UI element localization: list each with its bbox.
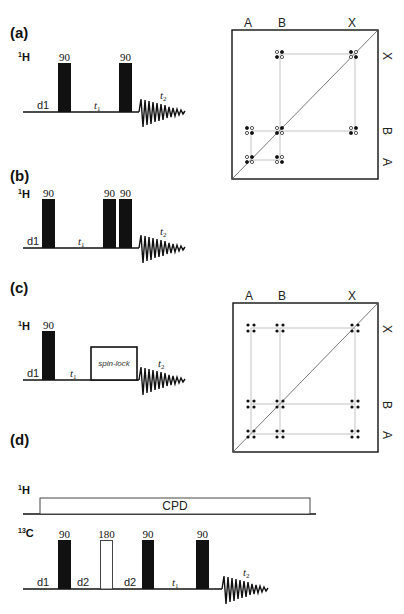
pulse-sequence-figure: (a) 1H 90 90 d1 t1 t2 A B X X B A <box>0 0 404 614</box>
panel-a-fid <box>139 99 185 127</box>
panel-a-pulse-2-label: 90 <box>120 51 132 63</box>
panel-d-cpd-label: CPD <box>162 499 188 513</box>
spectrum-c: A B X X B A <box>233 289 394 452</box>
panel-b-t2: t2 <box>160 225 167 239</box>
panel-d-nucleus: 13C <box>18 527 34 539</box>
panel-c-t1: t1 <box>70 367 77 381</box>
panel-a-pulse-1-label: 90 <box>59 51 71 63</box>
panel-d-sequence: (d) 1H CPD 13C 90 180 90 90 d1 d2 d2 t1 … <box>10 431 316 604</box>
spectrum-a-side-label-B: B <box>380 127 394 135</box>
spectrum-a-peaks <box>245 50 357 163</box>
panel-c-sequence: (c) 1H 90 spin-lock d1 t1 t2 <box>10 279 185 395</box>
panel-b-nucleus: 1H <box>18 188 30 200</box>
panel-c-fid <box>139 367 185 395</box>
panel-d-pulse-180-label: 180 <box>98 528 115 540</box>
spectrum-c-side-label-B: B <box>380 401 394 409</box>
panel-a-pulse-2 <box>119 63 132 112</box>
spectrum-a-side-label-X: X <box>380 52 394 60</box>
spectrum-c-top-label-B: B <box>278 289 286 303</box>
panel-a-sequence: (a) 1H 90 90 d1 t1 t2 <box>10 24 185 127</box>
panel-d-pulse-4-label: 90 <box>197 528 209 540</box>
panel-d-pulse-3 <box>142 540 154 589</box>
panel-d-delay-d2-1: d2 <box>77 576 89 588</box>
spectrum-a-top-label-X: X <box>348 16 356 30</box>
panel-c-delay-d1: d1 <box>27 367 39 379</box>
panel-b-label: (b) <box>10 167 29 184</box>
panel-b-delay-d1: d1 <box>27 235 39 247</box>
panel-d-pulse-1 <box>58 540 71 589</box>
panel-d-pulse-1-label: 90 <box>59 528 71 540</box>
panel-d-fid <box>222 576 268 604</box>
panel-a-delay-d1: d1 <box>37 99 49 111</box>
panel-b-pulse-3 <box>119 199 132 248</box>
panel-b-sequence: (b) 1H 90 90 90 d1 t1 t2 <box>10 167 185 263</box>
panel-b-t1: t1 <box>78 235 85 249</box>
spectrum-c-top-label-X: X <box>348 289 356 303</box>
panel-d-pulse-180 <box>101 541 113 590</box>
panel-c-pulse-1-label: 90 <box>43 319 55 331</box>
panel-d-t1: t1 <box>172 576 179 590</box>
panel-b-pulse-2 <box>103 199 116 248</box>
panel-d-delay-d1: d1 <box>37 576 49 588</box>
spectrum-a-side-label-A: A <box>380 158 394 166</box>
spectrum-c-connectors <box>251 328 355 434</box>
spectrum-a-top-label-B: B <box>278 16 286 30</box>
spectrum-a: A B X X B A <box>232 16 394 179</box>
panel-a-t1: t1 <box>94 99 101 113</box>
panel-a-pulse-1 <box>58 63 71 112</box>
panel-b-pulse-1-label: 90 <box>43 187 55 199</box>
spectrum-a-top-label-A: A <box>244 16 252 30</box>
panel-b-pulse-2-label: 90 <box>104 187 116 199</box>
panel-c-pulse-1 <box>42 331 55 380</box>
spectrum-c-side-label-X: X <box>380 325 394 333</box>
panel-d-delay-d2-2: d2 <box>124 576 136 588</box>
panel-d-pulse-3-label: 90 <box>143 528 155 540</box>
panel-b-pulse-1 <box>42 199 55 248</box>
panel-a-nucleus: 1H <box>18 51 30 63</box>
panel-b-pulse-3-label: 90 <box>120 187 132 199</box>
panel-d-decouple-nucleus: 1H <box>18 484 30 496</box>
panel-c-spin-lock-label: spin-lock <box>98 359 131 368</box>
panel-a-t2: t2 <box>160 89 167 103</box>
panel-c-nucleus: 1H <box>18 320 30 332</box>
panel-d-t2: t2 <box>243 566 250 580</box>
panel-d-pulse-4 <box>196 540 209 589</box>
panel-c-label: (c) <box>10 279 28 296</box>
panel-a-label: (a) <box>10 24 28 41</box>
panel-b-fid <box>139 235 185 263</box>
panel-d-label: (d) <box>10 431 29 448</box>
panel-c-t2: t2 <box>158 357 165 371</box>
spectrum-c-top-label-A: A <box>245 289 253 303</box>
spectrum-c-side-label-A: A <box>380 431 394 439</box>
